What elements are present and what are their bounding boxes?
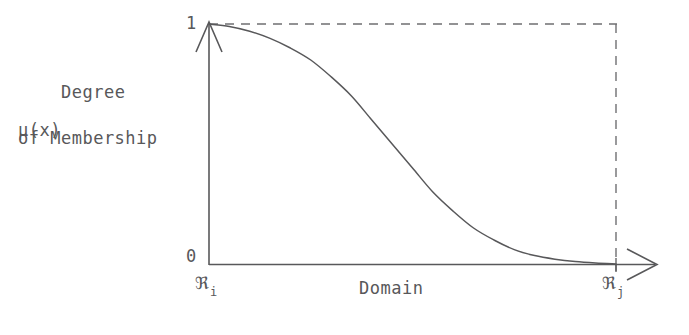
y-axis-title-line1: Degree [61, 82, 125, 102]
x-axis-title: Domain [359, 277, 423, 300]
x-end-symbol: ℜ [602, 273, 616, 293]
y-tick-label-0: 0 [186, 245, 196, 268]
x-start-endpoint-label: ℜi [195, 272, 216, 298]
y-tick-label-1: 1 [186, 12, 196, 35]
membership-function-curve [209, 24, 616, 264]
membership-function-figure: Degree of Membership μ(x) 1 0 Domain ℜi … [0, 0, 689, 335]
y-axis-symbol-label: μ(x) [18, 119, 61, 142]
x-end-subscript: j [617, 285, 624, 299]
x-start-subscript: i [210, 285, 217, 299]
x-end-endpoint-label: ℜj [602, 272, 623, 298]
x-start-symbol: ℜ [195, 273, 209, 293]
